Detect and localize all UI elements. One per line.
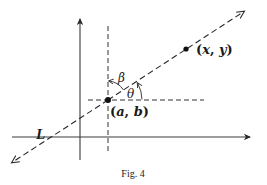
- point-a-b-label: (a, b): [110, 104, 149, 119]
- point-x-y-label: (x, y): [196, 42, 233, 57]
- line-L-label: L: [35, 126, 45, 142]
- diagram-canvas: (a, b) (x, y) β θ L Fig. 4: [0, 0, 267, 185]
- angle-theta-label: θ: [127, 87, 135, 101]
- point-a-b: [105, 97, 111, 103]
- angle-beta-label: β: [117, 71, 125, 85]
- line-L-lower: [12, 100, 108, 163]
- figure-caption: Fig. 4: [121, 168, 144, 179]
- angle-theta-arc: [138, 83, 143, 100]
- point-x-y: [183, 46, 188, 51]
- figure-4-diagram: (a, b) (x, y) β θ L Fig. 4: [0, 0, 267, 185]
